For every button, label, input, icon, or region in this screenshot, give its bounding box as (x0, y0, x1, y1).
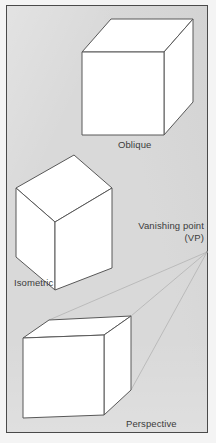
construction-line-bottom-right (131, 252, 207, 390)
vanishing-point-marker (206, 251, 208, 253)
perspective-cube (23, 316, 131, 418)
caption-oblique: Oblique (118, 139, 151, 151)
caption-isometric: Isometric (14, 277, 53, 289)
oblique-cube (82, 19, 193, 135)
pictorial-drawing-figure: Oblique Isometric Vanishing point (VP) P… (0, 0, 216, 443)
caption-vanishing-point: Vanishing point (VP) (126, 220, 204, 244)
construction-line-top-right (131, 252, 207, 316)
isometric-cube (16, 155, 112, 290)
caption-perspective: Perspective (126, 418, 177, 430)
perspective-front-face (23, 335, 104, 418)
oblique-front-face (82, 52, 164, 135)
